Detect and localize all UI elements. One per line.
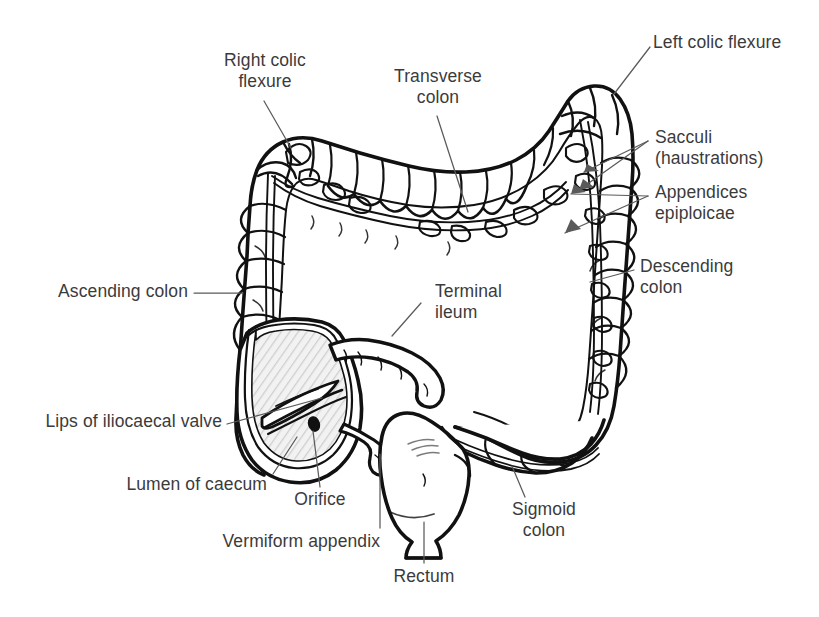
label-lumen-of-caecum: Lumen of caecum — [55, 474, 267, 495]
label-terminal-ileum: Terminal ileum — [435, 281, 555, 323]
label-orifice: Orifice — [275, 489, 365, 510]
label-ascending-colon: Ascending colon — [20, 281, 188, 302]
label-rectum: Rectum — [379, 566, 469, 587]
label-descending-colon: Descending colon — [640, 256, 800, 298]
label-vermiform-appendix: Vermiform appendix — [150, 531, 380, 552]
label-lips-of-iliocaecal-valve: Lips of iliocaecal valve — [10, 411, 222, 432]
label-sacculi: Sacculi (haustrations) — [655, 127, 815, 169]
anatomy-diagram: Right colic flexure Transverse colon Lef… — [0, 0, 819, 617]
label-left-colic-flexure: Left colic flexure — [653, 32, 813, 53]
label-sigmoid-colon: Sigmoid colon — [489, 499, 599, 541]
leader-right-colic-flexure — [264, 101, 291, 148]
label-transverse-colon: Transverse colon — [378, 66, 498, 108]
leader-left-colic-flexure — [614, 47, 650, 94]
label-right-colic-flexure: Right colic flexure — [205, 50, 325, 92]
label-appendices-epiploicae: Appendices epiploicae — [655, 182, 815, 224]
